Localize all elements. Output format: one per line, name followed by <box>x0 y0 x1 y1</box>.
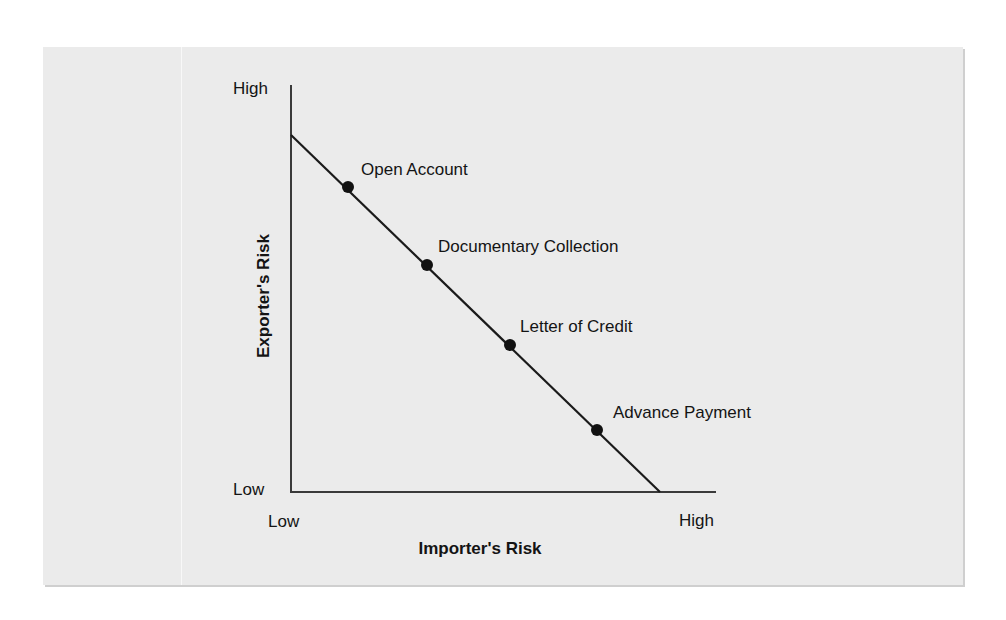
point-letter-of-credit <box>504 339 516 351</box>
label-open-account: Open Account <box>361 161 468 178</box>
label-documentary-collection: Documentary Collection <box>438 238 618 255</box>
point-documentary-collection <box>421 259 433 271</box>
chart-canvas <box>0 0 1006 620</box>
x-axis-title: Importer's Risk <box>418 540 541 557</box>
y-tick-high: High <box>233 80 268 97</box>
label-letter-of-credit: Letter of Credit <box>520 318 632 335</box>
label-advance-payment: Advance Payment <box>613 404 751 421</box>
x-tick-high: High <box>679 512 714 529</box>
y-axis-title: Exporter's Risk <box>255 234 272 358</box>
x-tick-low: Low <box>268 513 299 530</box>
point-open-account <box>342 181 354 193</box>
point-advance-payment <box>591 424 603 436</box>
y-tick-low: Low <box>233 481 264 498</box>
